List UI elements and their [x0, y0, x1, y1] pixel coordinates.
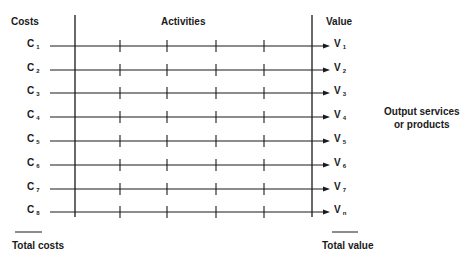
cost-subscript: 4	[36, 115, 39, 121]
cost-letter: C	[27, 181, 34, 192]
value-letter: V	[334, 85, 341, 96]
cost-subscript: 7	[36, 187, 39, 193]
value-letter: V	[334, 133, 341, 144]
value-subscript: 2	[343, 68, 346, 74]
arrowhead-icon	[323, 91, 330, 96]
arrowhead-icon	[323, 210, 330, 215]
arrowhead-icon	[323, 44, 330, 49]
cost-subscript: 3	[36, 91, 39, 97]
value-label: V4	[334, 109, 346, 120]
output-note: Output services or products	[384, 106, 460, 130]
value-subscript: 6	[343, 163, 346, 169]
cost-letter: C	[27, 204, 34, 215]
cost-label: C6	[27, 157, 40, 168]
value-label: V6	[334, 157, 346, 168]
cost-label: C4	[27, 109, 40, 120]
value-header: Value	[326, 16, 352, 27]
value-subscript: 4	[343, 115, 346, 121]
cost-letter: C	[27, 85, 34, 96]
cost-subscript: 1	[36, 44, 39, 50]
arrowhead-icon	[323, 68, 330, 73]
cost-subscript: 5	[36, 139, 39, 145]
value-letter: V	[334, 157, 341, 168]
value-letter: V	[334, 38, 341, 49]
value-letter: V	[334, 62, 341, 73]
cost-subscript: 2	[36, 68, 39, 74]
value-label: V7	[334, 181, 346, 192]
activities-header: Activities	[161, 16, 205, 27]
cost-label: C3	[27, 85, 40, 96]
arrowhead-icon	[323, 187, 330, 192]
value-subscript: n	[343, 210, 347, 216]
cost-letter: C	[27, 38, 34, 49]
value-subscript: 5	[343, 139, 346, 145]
cost-letter: C	[27, 109, 34, 120]
total-value-label: Total value	[322, 240, 374, 251]
cost-letter: C	[27, 62, 34, 73]
arrowhead-icon	[323, 115, 330, 120]
value-subscript: 1	[343, 44, 346, 50]
cost-label: C5	[27, 133, 40, 144]
cost-letter: C	[27, 157, 34, 168]
output-note-line1: Output services	[384, 106, 460, 117]
value-letter: V	[334, 181, 341, 192]
cost-label: C7	[27, 181, 40, 192]
value-label: V2	[334, 62, 346, 73]
value-label: V3	[334, 85, 346, 96]
cost-subscript: 6	[36, 163, 39, 169]
output-note-line2: or products	[384, 119, 460, 130]
value-label: Vn	[334, 204, 346, 215]
cost-label: C8	[27, 204, 40, 215]
cost-subscript: 8	[36, 210, 39, 216]
activity-arrows	[50, 40, 330, 218]
arrowhead-icon	[323, 163, 330, 168]
cost-letter: C	[27, 133, 34, 144]
costs-header: Costs	[11, 16, 39, 27]
value-letter: V	[334, 204, 341, 215]
value-subscript: 7	[343, 187, 346, 193]
cost-label: C2	[27, 62, 40, 73]
value-label: V1	[334, 38, 346, 49]
value-label: V5	[334, 133, 346, 144]
arrowhead-icon	[323, 139, 330, 144]
cost-label: C1	[27, 38, 40, 49]
total-costs-label: Total costs	[12, 240, 64, 251]
value-subscript: 3	[343, 91, 346, 97]
value-letter: V	[334, 109, 341, 120]
